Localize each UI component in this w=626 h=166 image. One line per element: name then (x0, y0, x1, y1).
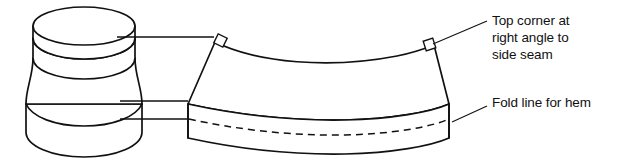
callout-top-corner-text: Top corner at right angle to side seam (492, 12, 570, 63)
spool-lower-skirt (26, 104, 142, 157)
right-angle-marker-right (423, 38, 436, 51)
spool-top-ellipse (33, 7, 135, 45)
panel-main-body (188, 42, 449, 120)
callout-leader-top-corner (433, 21, 487, 44)
spool-form (26, 7, 142, 157)
callout-leader-fold-line (452, 106, 487, 122)
fabric-panel (188, 34, 449, 154)
callout-fold-line-text: Fold line for hem (492, 94, 591, 111)
